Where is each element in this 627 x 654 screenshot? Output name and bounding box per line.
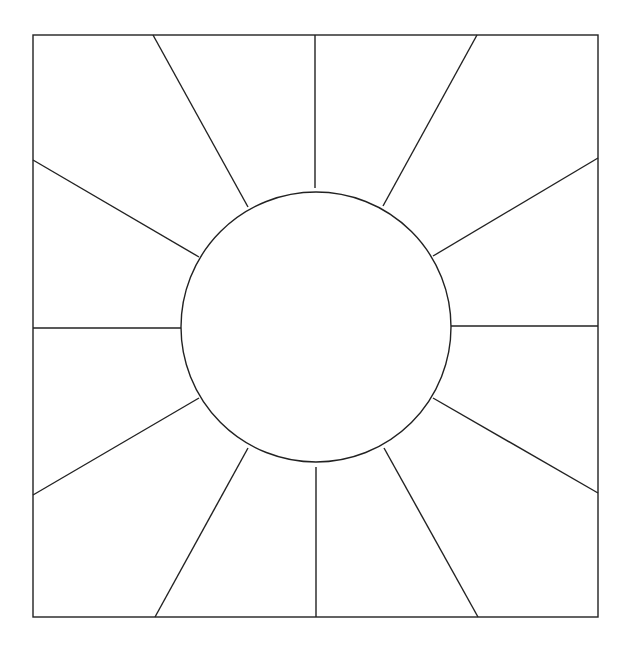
ray-line-10	[33, 398, 199, 495]
ray-line-6	[433, 398, 598, 493]
ray-line-4	[433, 158, 598, 256]
sun-circle	[181, 192, 451, 462]
ray-line-1	[153, 35, 248, 207]
ray-line-7	[384, 448, 478, 617]
ray-line-3	[383, 35, 477, 206]
sun-diagram	[0, 0, 627, 654]
ray-line-12	[33, 160, 199, 257]
ray-line-9	[155, 448, 248, 617]
